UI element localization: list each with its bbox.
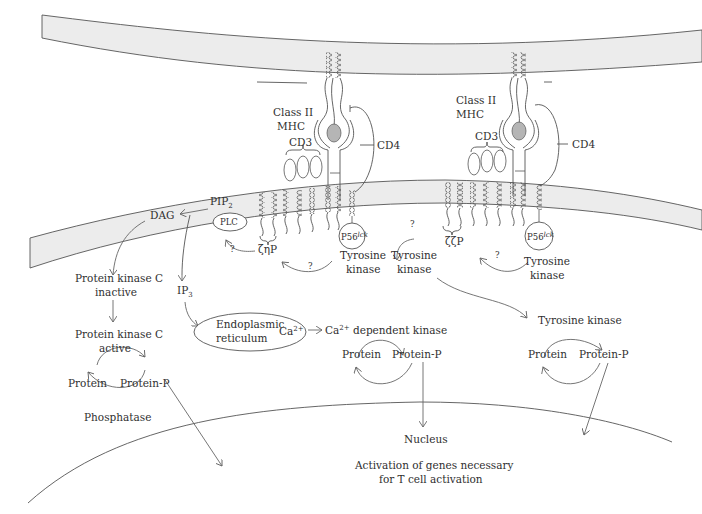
mhc-label-right-1: Class II (456, 94, 496, 106)
dag-label: DAG (150, 209, 174, 221)
protein-p-label-mid: Protein-P (392, 348, 442, 360)
mhc-label-right-2: MHC (456, 108, 484, 120)
protein-p-label-right: Protein-P (579, 348, 629, 360)
mhc-peptide (327, 124, 341, 142)
cd3-label-right: CD3 (475, 130, 498, 142)
ca-dependent-kinase-label: Ca2+ dependent kinase (325, 324, 447, 336)
ip3-label: IP3 (177, 284, 193, 299)
tyrosine-kinase-mid-1: Tyrosine (391, 249, 437, 261)
pkc-inactive-label-2: inactive (95, 286, 137, 298)
zeta-zeta-label: ζζP (445, 235, 463, 247)
er-label-1: Endoplasmic (216, 318, 285, 330)
tyrosine-kinase-left-1: Tyrosine (340, 249, 386, 261)
er-label-2: reticulum (216, 332, 268, 344)
tyrosine-kinase-left-2: kinase (346, 263, 380, 275)
cd4-label-right: CD4 (572, 138, 595, 150)
protein-label-mid: Protein (342, 348, 381, 360)
zeta-eta-label: ζηP (258, 243, 277, 255)
mhc-label-left-2: MHC (277, 120, 305, 132)
tyrosine-kinase-right-1: Tyrosine (524, 255, 570, 267)
tyrosine-kinase-mid-2: kinase (397, 263, 431, 275)
t-cell-activation-diagram: Class II MHC CD3 CD4 P56lck ζηP Tyrosine… (0, 0, 702, 514)
protein-label-right: Protein (528, 348, 567, 360)
right-receptor-complex (443, 52, 559, 250)
activation-label-1: Activation of genes necessary (354, 459, 514, 471)
cd4-label-left: CD4 (377, 139, 400, 151)
phosphatase-label: Phosphatase (84, 411, 151, 423)
plc-label: PLC (220, 217, 238, 227)
question-mark: ? (495, 250, 500, 260)
protein-label-left: Protein (68, 377, 107, 389)
question-mark: ? (308, 261, 313, 271)
mhc-peptide-right (512, 122, 526, 140)
apc-membrane (42, 15, 702, 74)
pkc-active-label-2: active (99, 342, 131, 354)
pkc-active-label-1: Protein kinase C (75, 328, 163, 340)
cd3-label-left: CD3 (289, 136, 312, 148)
activation-label-2: for T cell activation (379, 473, 483, 485)
protein-p-label-left: Protein-P (120, 377, 170, 389)
pkc-inactive-label-1: Protein kinase C (75, 272, 163, 284)
nucleus-label: Nucleus (404, 433, 448, 445)
tyrosine-kinase-right-2: kinase (530, 269, 564, 281)
question-mark: ? (410, 219, 415, 229)
left-receptor-complex (259, 52, 374, 249)
question-mark: ? (230, 244, 235, 254)
mhc-label-left-1: Class II (273, 106, 313, 118)
tyrosine-kinase-cycle-label: Tyrosine kinase (538, 314, 622, 326)
